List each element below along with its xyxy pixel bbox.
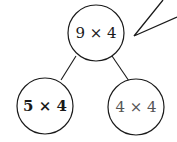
decomposition-tree-diagram: 9 × 4 5 × 4 4 × 4 — [0, 0, 177, 142]
right-child-label: 4 × 4 — [115, 98, 156, 116]
edge-root-to-left — [61, 56, 76, 80]
right-child-node: 4 × 4 — [108, 79, 164, 135]
left-child-label: 5 × 4 — [23, 97, 67, 115]
root-node: 9 × 4 — [68, 5, 124, 61]
left-child-node: 5 × 4 — [17, 78, 73, 134]
speech-bubble-tail — [134, 0, 177, 36]
edge-root-to-right — [112, 56, 129, 81]
root-node-label: 9 × 4 — [75, 24, 116, 42]
